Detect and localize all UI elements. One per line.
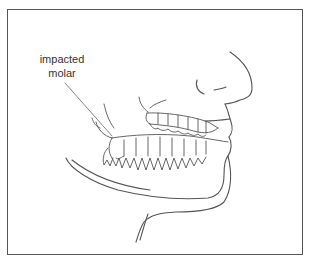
label-leader-line (65, 83, 112, 136)
label-line-2: molar (30, 66, 94, 80)
mandible-outline (66, 156, 231, 242)
impacted-molar-label: impacted molar (30, 52, 94, 80)
nose-outline (196, 52, 252, 104)
label-line-1: impacted (30, 52, 94, 66)
jaw-illustration (0, 0, 314, 266)
skull-outline (139, 97, 166, 112)
lip-chin-outline (205, 104, 232, 156)
upper-teeth (146, 113, 218, 137)
lower-teeth (109, 135, 228, 170)
